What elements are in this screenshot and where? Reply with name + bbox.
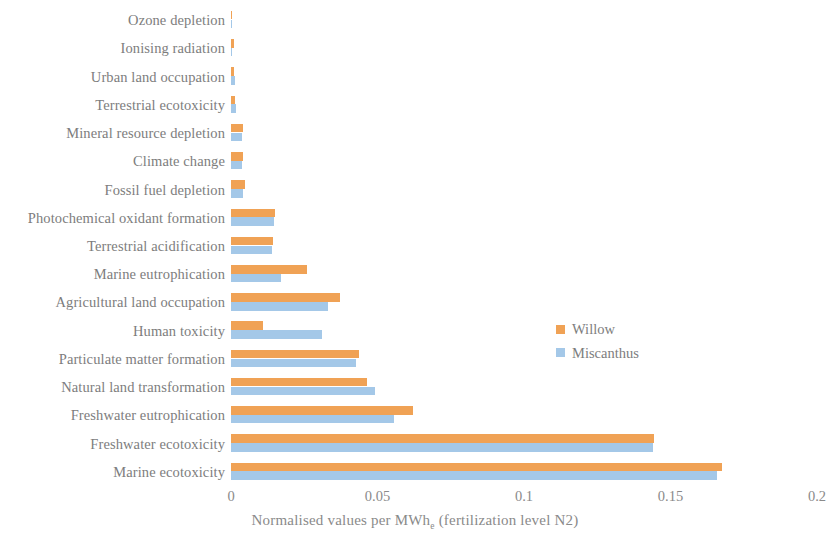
- bar-group: Photochemical oxidant formation: [231, 204, 817, 232]
- bar-group: Terrestrial acidification: [231, 232, 817, 260]
- bar-miscanthus: [231, 161, 242, 170]
- bar-willow: [231, 209, 275, 218]
- bar-miscanthus: [231, 359, 356, 368]
- category-label: Mineral resource depletion: [66, 126, 225, 141]
- category-label: Agricultural land occupation: [56, 295, 226, 310]
- category-label: Marine eutrophication: [94, 267, 225, 282]
- x-tick-label: 0.2: [808, 488, 826, 505]
- bar-miscanthus: [231, 387, 375, 396]
- category-label: Natural land transformation: [61, 380, 225, 395]
- category-label: Climate change: [133, 154, 225, 169]
- bar-group: Particulate matter formation: [231, 345, 817, 373]
- x-axis-title-tail: (fertilization level N2): [435, 512, 579, 528]
- x-axis: 00.050.10.150.2: [231, 486, 817, 487]
- legend-label: Miscanthus: [572, 346, 639, 361]
- bar-willow: [231, 11, 232, 20]
- bar-willow: [231, 321, 263, 330]
- legend-swatch-icon: [556, 348, 565, 357]
- bar-willow: [231, 406, 413, 415]
- category-label: Freshwater ecotoxicity: [90, 436, 225, 451]
- category-label: Urban land occupation: [91, 69, 225, 84]
- bar-group: Urban land occupation: [231, 62, 817, 90]
- bar-willow: [231, 350, 359, 359]
- legend-item: Willow: [556, 322, 639, 337]
- bar-miscanthus: [231, 189, 243, 198]
- bar-willow: [231, 463, 722, 472]
- category-label: Human toxicity: [133, 323, 225, 338]
- bar-miscanthus: [231, 471, 717, 480]
- bar-willow: [231, 124, 243, 133]
- bar-willow: [231, 237, 273, 246]
- category-label: Marine ecotoxicity: [113, 465, 225, 480]
- bar-miscanthus: [231, 133, 242, 142]
- bar-group: Marine eutrophication: [231, 260, 817, 288]
- bar-group: Freshwater ecotoxicity: [231, 430, 817, 458]
- bar-miscanthus: [231, 76, 235, 85]
- bar-group: Freshwater eutrophication: [231, 401, 817, 429]
- category-label: Particulate matter formation: [59, 352, 225, 367]
- bar-group: Human toxicity: [231, 317, 817, 345]
- legend-item: Miscanthus: [556, 346, 639, 361]
- bar-miscanthus: [231, 274, 281, 283]
- bar-group: Terrestrial ecotoxicity: [231, 91, 817, 119]
- bar-group: Ionising radiation: [231, 34, 817, 62]
- bar-miscanthus: [231, 415, 394, 424]
- bar-group: Climate change: [231, 147, 817, 175]
- bar-miscanthus: [231, 217, 274, 226]
- x-tick-label: 0.15: [658, 488, 683, 505]
- category-label: Freshwater eutrophication: [71, 408, 225, 423]
- bar-willow: [231, 265, 307, 274]
- bar-group: Marine ecotoxicity: [231, 458, 817, 486]
- plot-area: Ozone depletionIonising radiationUrban l…: [231, 6, 817, 486]
- x-axis-title-main: Normalised values per MWh: [252, 512, 431, 528]
- bar-group: Mineral resource depletion: [231, 119, 817, 147]
- category-label: Ionising radiation: [121, 41, 226, 56]
- bar-miscanthus: [231, 48, 232, 57]
- x-tick-label: 0.05: [365, 488, 390, 505]
- bar-group: Natural land transformation: [231, 373, 817, 401]
- bar-miscanthus: [231, 330, 322, 339]
- legend-label: Willow: [572, 322, 615, 337]
- bar-willow: [231, 152, 243, 161]
- bar-willow: [231, 293, 340, 302]
- bar-willow: [231, 39, 234, 48]
- bar-willow: [231, 67, 234, 76]
- bar-willow: [231, 378, 367, 387]
- bar-willow: [231, 96, 235, 105]
- legend-swatch-icon: [556, 325, 565, 334]
- bar-willow: [231, 180, 245, 189]
- bar-miscanthus: [231, 443, 653, 452]
- bar-chart: Ozone depletionIonising radiationUrban l…: [0, 0, 830, 535]
- bar-willow: [231, 434, 654, 443]
- bar-miscanthus: [231, 20, 232, 29]
- bar-group: Agricultural land occupation: [231, 288, 817, 316]
- bar-group: Ozone depletion: [231, 6, 817, 34]
- legend: WillowMiscanthus: [556, 322, 639, 369]
- category-label: Terrestrial acidification: [87, 239, 225, 254]
- category-label: Photochemical oxidant formation: [28, 211, 225, 226]
- bar-miscanthus: [231, 246, 272, 255]
- x-tick-label: 0: [227, 488, 234, 505]
- category-label: Ozone depletion: [128, 13, 225, 28]
- x-tick-label: 0.1: [515, 488, 533, 505]
- bar-miscanthus: [231, 302, 328, 311]
- bar-group: Fossil fuel depletion: [231, 175, 817, 203]
- category-label: Terrestrial ecotoxicity: [95, 98, 225, 113]
- x-axis-title: Normalised values per MWhe (fertilizatio…: [0, 512, 830, 531]
- bar-miscanthus: [231, 104, 236, 113]
- category-label: Fossil fuel depletion: [104, 182, 225, 197]
